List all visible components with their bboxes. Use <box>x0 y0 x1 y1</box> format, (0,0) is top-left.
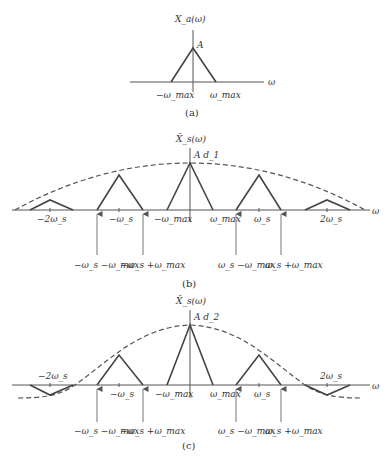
tick-neg-ws: −ω_s <box>110 389 134 400</box>
peak-label-c: A d_2 <box>193 312 220 323</box>
caption-c: (c) <box>182 440 196 451</box>
arrow-label: −ω_s +ω_max <box>120 260 185 271</box>
tick-neg-2ws: −2ω_s <box>38 371 68 382</box>
tick-neg-wmax: −ω_max <box>156 90 194 101</box>
tick-neg-wmax: −ω_max <box>154 214 192 225</box>
panel-c: X̂_s(ω) A d_2 ω −2ω_s −ω_s −ω_max ω_max … <box>12 295 380 451</box>
peak-label-b: A d_1 <box>193 150 219 161</box>
axis-label-a: ω <box>268 77 276 87</box>
tick-wmax: ω_max <box>210 90 241 101</box>
tick-2ws: 2ω_s <box>319 371 343 382</box>
tick-ws: ω_s <box>254 389 271 400</box>
arrow-label: ω_s +ω_max <box>265 426 323 437</box>
replica-pos1 <box>236 355 281 385</box>
panel-b: X̂_s(ω) A d_1 ω −2ω_s −ω_s −ω_max ω_max … <box>12 133 380 289</box>
replica-neg1 <box>97 175 143 210</box>
replica-neg2 <box>30 200 73 210</box>
caption-b: (b) <box>182 278 196 289</box>
panel-a: X_a(ω) A ω −ω_max ω_max (a) <box>130 14 276 118</box>
tick-2ws: 2ω_s <box>319 214 343 225</box>
tick-neg-wmax: −ω_max <box>155 389 193 400</box>
tick-neg-ws: −ω_s <box>109 214 133 225</box>
peak-label-a: A <box>196 40 204 50</box>
spectrum-diagram: X_a(ω) A ω −ω_max ω_max (a) X̂_s(ω) A d_… <box>0 0 389 456</box>
panel-b-title: X̂_s(ω) <box>175 133 206 145</box>
axis-label-c: ω <box>372 381 380 391</box>
caption-a: (a) <box>185 107 199 118</box>
panel-a-title: X_a(ω) <box>174 14 206 25</box>
arrow-label: −ω_s +ω_max <box>120 426 185 437</box>
tick-neg-2ws: −2ω_s <box>37 214 67 225</box>
replica-neg1 <box>97 355 143 385</box>
axis-label-b: ω <box>372 206 380 216</box>
tick-ws: ω_s <box>254 214 271 225</box>
panel-c-title: X̂_s(ω) <box>175 295 206 307</box>
arrow-label: ω_s +ω_max <box>265 260 323 271</box>
replica-pos1 <box>236 175 281 210</box>
